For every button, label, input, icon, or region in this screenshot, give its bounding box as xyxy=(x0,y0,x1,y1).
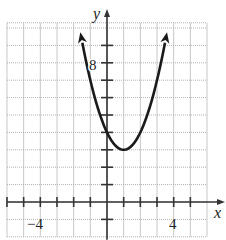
x-tick-label-neg4: −4 xyxy=(27,216,43,232)
y-tick-label-8: 8 xyxy=(89,57,97,73)
x-tick-label-4: 4 xyxy=(169,216,177,232)
curve-arrow-icon xyxy=(160,32,169,44)
x-axis-label: x xyxy=(213,204,221,221)
curve-arrow-icon xyxy=(78,32,87,44)
axes xyxy=(7,9,225,240)
y-axis-arrow-icon xyxy=(104,9,110,17)
parabola-graph: y x −4 4 8 xyxy=(0,0,226,240)
y-axis-label: y xyxy=(91,5,101,23)
